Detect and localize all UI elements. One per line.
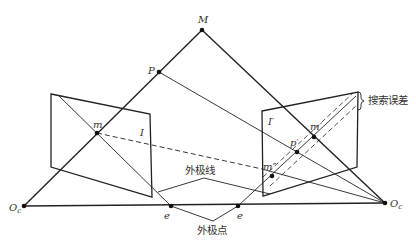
point-Oc xyxy=(22,204,27,209)
ray-m-dashed xyxy=(97,133,262,169)
point-Oc2 xyxy=(383,201,388,206)
baseline xyxy=(24,203,385,206)
label-Oc2: Oc xyxy=(390,198,402,211)
label-m1: m′ xyxy=(310,121,322,132)
point-e2 xyxy=(236,204,241,209)
epipolar-geometry-diagram: M P m I I′ m′ p′ m″ e e Oc Oc 外极线 外极点 搜索… xyxy=(0,0,416,241)
label-m2: m″ xyxy=(263,161,276,172)
epipole-callout xyxy=(171,206,238,221)
ray-p-oc2 xyxy=(159,72,385,203)
label-epipolar-line: 外极线 xyxy=(185,164,216,176)
label-m: m xyxy=(93,119,102,130)
label-P: P xyxy=(147,65,155,76)
label-epipole: 外极点 xyxy=(197,224,227,236)
point-m1 xyxy=(312,135,317,140)
search-error-brace xyxy=(358,92,364,110)
point-P xyxy=(157,70,162,75)
point-m xyxy=(95,131,100,136)
label-p1: p′ xyxy=(290,137,299,148)
search-band-upper xyxy=(263,93,353,177)
point-p1 xyxy=(295,150,300,155)
point-M xyxy=(200,28,205,33)
label-Oc: Oc xyxy=(9,202,21,215)
label-right-plane: I′ xyxy=(267,116,275,127)
point-e xyxy=(169,204,174,209)
label-e2: e xyxy=(237,210,243,221)
search-band-lower xyxy=(270,105,357,186)
label-M: M xyxy=(197,14,209,25)
point-m2 xyxy=(270,174,275,179)
label-e: e xyxy=(164,210,170,221)
label-left-plane: I xyxy=(139,127,145,138)
label-search-error: 搜索误差 xyxy=(368,94,408,106)
left-epipolar-line xyxy=(58,95,171,206)
left-image-plane xyxy=(51,94,152,197)
